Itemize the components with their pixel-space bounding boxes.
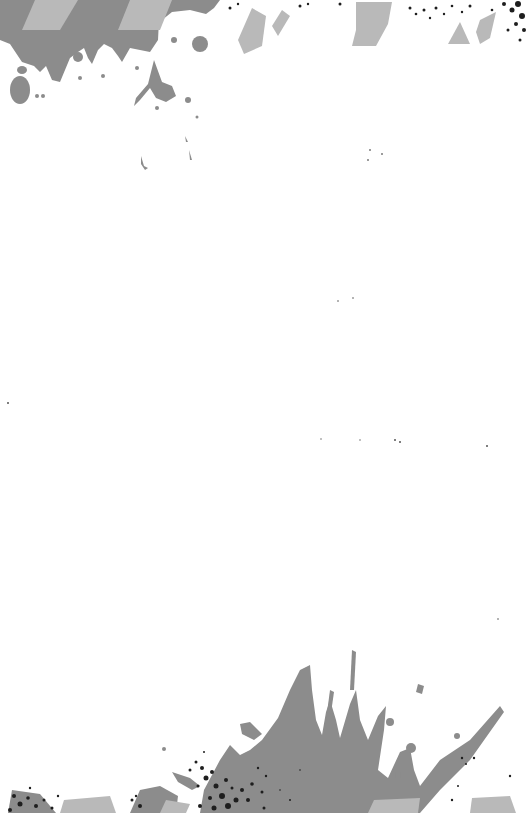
top-splatter	[0, 0, 526, 170]
bottom-splatter	[8, 650, 516, 813]
scattered-specks	[7, 297, 499, 620]
decorative-background	[0, 0, 528, 813]
grunge-splatter-art	[0, 0, 528, 813]
